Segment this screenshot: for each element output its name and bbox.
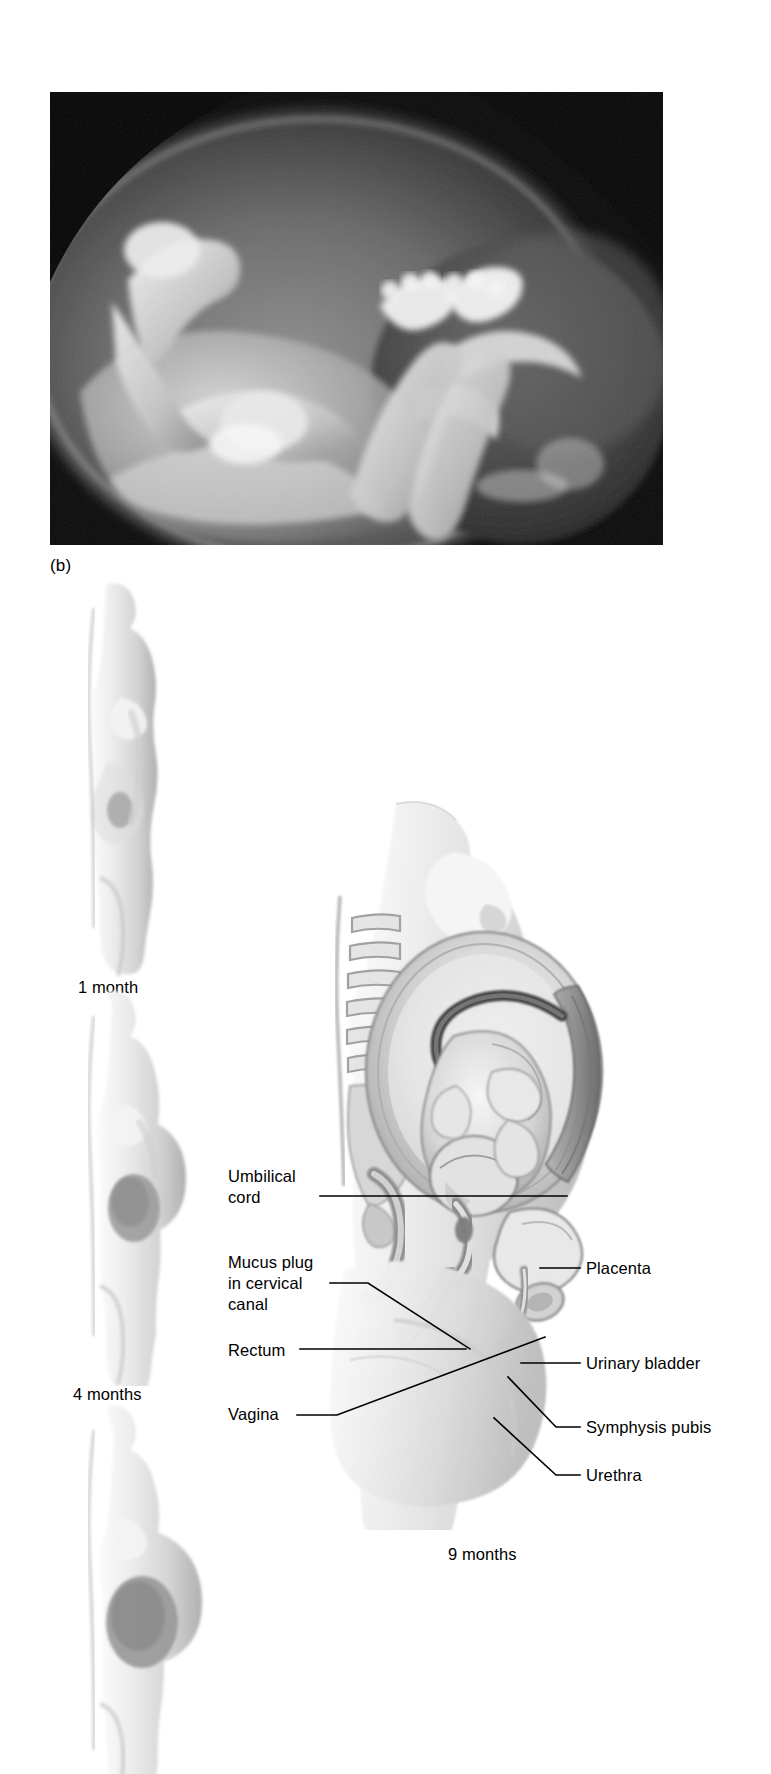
stage-figure-9-months-small — [42, 1400, 212, 1774]
stage-figure-4-months — [42, 986, 202, 1386]
label-urethra: Urethra — [586, 1465, 642, 1486]
label-symphysis-pubis: Symphysis pubis — [586, 1417, 711, 1438]
label-umbilical-cord: Umbilical cord — [228, 1166, 296, 1208]
stage-caption-9-months: 9 months — [448, 1545, 517, 1564]
nine-month-cutaway-illustration — [278, 800, 638, 1530]
panel-letter-b: (b) — [50, 556, 71, 576]
figure-page: (b) — [0, 0, 771, 1774]
label-placenta: Placenta — [586, 1258, 651, 1279]
stage-figure-1-month — [42, 578, 202, 978]
label-vagina: Vagina — [228, 1404, 279, 1425]
label-urinary-bladder: Urinary bladder — [586, 1353, 700, 1374]
label-rectum: Rectum — [228, 1340, 285, 1361]
label-mucus-plug-in-cervical-canal: Mucus plug in cervical canal — [228, 1252, 313, 1315]
fetus-photograph — [50, 92, 663, 545]
